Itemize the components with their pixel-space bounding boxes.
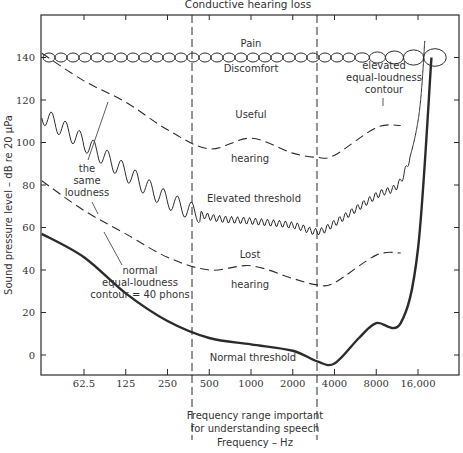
y-tick-label: 120 <box>16 95 35 106</box>
chain-link <box>79 53 91 62</box>
chart-title: Conductive hearing loss <box>185 0 311 10</box>
label-elevated-threshold: Elevated threshold <box>207 193 301 204</box>
y-tick-label: 140 <box>16 52 35 63</box>
chain-link <box>175 53 187 62</box>
x-tick-label: 2000 <box>280 378 305 389</box>
chain-link <box>115 53 127 62</box>
chain-link <box>151 53 163 62</box>
chain-link <box>211 53 223 62</box>
label-normal-el-2: equal-loudness <box>102 277 178 288</box>
chain-link <box>223 53 235 62</box>
label-same-2: same <box>73 175 100 186</box>
x-tick-label: 4000 <box>322 378 347 389</box>
chain-link <box>424 49 447 67</box>
chain-link <box>163 53 175 62</box>
chain-link <box>271 53 283 62</box>
y-tick-label: 0 <box>29 350 35 361</box>
x-tick-label: 16,000 <box>401 378 436 389</box>
label-same-1: the <box>79 163 95 174</box>
chain-link <box>235 53 247 62</box>
label-hearing-upper: hearing <box>231 153 269 164</box>
chain-link <box>283 53 295 62</box>
hearing-loss-chart: Conductive hearing loss 0204060801001201… <box>0 0 463 453</box>
chain-link <box>403 50 423 65</box>
chain-link <box>331 53 343 62</box>
label-normal-el-3: contour = 40 phons <box>90 289 189 300</box>
y-tick-label: 100 <box>16 137 35 148</box>
chain-link <box>295 53 307 62</box>
chain-link <box>247 53 259 62</box>
elevated-equal-loudness-curve <box>42 53 401 158</box>
label-discomfort: Discomfort <box>224 63 279 74</box>
x-tick-label: 125 <box>116 378 135 389</box>
label-elevated-el-1: elevated <box>362 60 406 71</box>
chain-link <box>259 53 271 62</box>
label-normal-el-1: normal <box>122 265 157 276</box>
chain-link <box>91 53 103 62</box>
label-lost: Lost <box>240 249 261 260</box>
chain-link <box>343 53 355 62</box>
label-useful: Useful <box>235 109 266 120</box>
x-tick-label: 250 <box>158 378 177 389</box>
chain-link <box>127 53 139 62</box>
normal-threshold-curve <box>42 58 432 366</box>
x-axis-label: Frequency – Hz <box>217 437 293 448</box>
label-elevated-el-2: equal-loudness <box>346 72 422 83</box>
label-normal-threshold: Normal threshold <box>210 352 296 363</box>
chain-link <box>67 53 79 62</box>
normal-contour-leader <box>104 232 122 265</box>
label-hearing-lower: hearing <box>231 279 269 290</box>
x-tick-label: 1000 <box>238 378 263 389</box>
label-elevated-el-3: contour <box>365 84 404 95</box>
chain-link <box>319 53 331 62</box>
same-loudness-leader-upper <box>88 102 108 160</box>
chain-link <box>103 53 115 62</box>
same-loudness-leader-lower <box>92 202 98 214</box>
y-tick-label: 20 <box>22 307 35 318</box>
chain-link <box>187 53 199 62</box>
speech-range-line1: Frequency range important <box>187 410 324 421</box>
speech-range-line2: for understanding speech <box>191 423 320 434</box>
x-tick-label: 500 <box>200 378 219 389</box>
label-same-3: loudness <box>65 187 110 198</box>
y-tick-label: 80 <box>22 180 35 191</box>
y-axis: 020406080100120140 <box>16 52 459 361</box>
label-pain: Pain <box>241 38 262 49</box>
y-axis-label: Sound pressure level – dB re 20 μPa <box>3 115 14 295</box>
y-tick-label: 60 <box>22 222 35 233</box>
x-tick-label: 8000 <box>364 378 389 389</box>
x-tick-label: 62.5 <box>73 378 95 389</box>
chain-link <box>55 53 67 62</box>
y-tick-label: 40 <box>22 265 35 276</box>
chain-link <box>199 53 211 62</box>
chain-link <box>139 53 151 62</box>
